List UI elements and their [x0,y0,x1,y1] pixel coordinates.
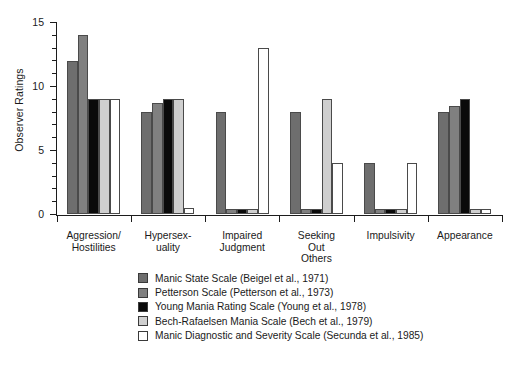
legend-swatch-icon [138,302,148,312]
bar [470,209,481,214]
bar [184,208,195,214]
bar [438,112,449,214]
bar [110,99,121,214]
bar [449,106,460,215]
bar [301,209,312,214]
bar [332,163,343,214]
legend-swatch-icon [138,331,148,341]
legend-item[interactable]: Manic Diagnostic and Severity Scale (Sec… [138,329,498,343]
bar [237,209,248,214]
legend-label: Petterson Scale (Petterson et al., 1973) [155,287,333,298]
bar [385,209,396,214]
legend-item[interactable]: Young Mania Rating Scale (Young et al., … [138,300,498,314]
bar [67,61,78,215]
legend-swatch-icon [138,273,148,283]
bar [290,112,301,214]
x-axis-category-labels: Aggression/ HostilitiesHypersex- ualityI… [0,224,508,276]
bar [375,209,386,214]
legend-item[interactable]: Petterson Scale (Petterson et al., 1973) [138,285,498,299]
chart-legend: Manic State Scale (Beigel et al., 1971)P… [138,271,498,343]
bar [481,209,492,214]
x-category-label: Appearance [420,230,508,242]
bar [99,99,110,214]
bar [364,163,375,214]
legend-label: Manic Diagnostic and Severity Scale (Sec… [155,330,423,341]
bar [216,112,227,214]
legend-label: Manic State Scale (Beigel et al., 1971) [155,273,328,284]
legend-swatch-icon [138,316,148,326]
bar [247,209,258,214]
bar [141,112,152,214]
bars-layer [0,0,508,228]
legend-swatch-icon [138,288,148,298]
bar [322,99,333,214]
bar [78,35,89,214]
plot-area: Observer Ratings 051015 Aggression/ Host… [0,0,508,228]
legend-label: Bech-Rafaelsen Mania Scale (Bech et al.,… [155,316,372,327]
bar [226,209,237,214]
bar [88,99,99,214]
legend-item[interactable]: Manic State Scale (Beigel et al., 1971) [138,271,498,285]
bar [163,99,174,214]
bar-chart-figure: Observer Ratings 051015 Aggression/ Host… [0,0,508,367]
legend-label: Young Mania Rating Scale (Young et al., … [155,301,366,312]
legend-item[interactable]: Bech-Rafaelsen Mania Scale (Bech et al.,… [138,314,498,328]
bar [460,99,471,214]
bar [173,99,184,214]
bar [258,48,269,214]
bar [311,209,322,214]
bar [407,163,418,214]
bar [152,103,163,214]
bar [396,209,407,214]
